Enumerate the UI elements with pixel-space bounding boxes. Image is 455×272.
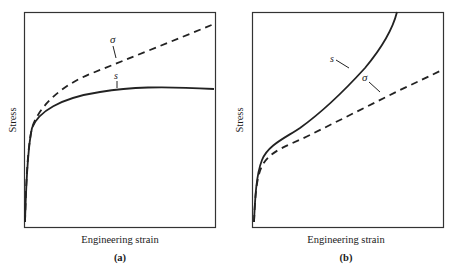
plot-frame-b bbox=[253, 13, 444, 228]
annotation-sigma-b: σ bbox=[362, 71, 368, 83]
annotation-s-a: s bbox=[114, 70, 118, 81]
panel-label-b: (b) bbox=[340, 252, 353, 264]
plot-frame-a bbox=[25, 13, 216, 228]
arrow-sigma-b bbox=[369, 82, 380, 92]
y-axis-label-a: Stress bbox=[7, 107, 18, 132]
arrow-sigma-a bbox=[113, 46, 116, 58]
panel-a: σ s Engineering strain (a) Stress bbox=[7, 13, 216, 265]
curve-sigma-a bbox=[25, 24, 214, 222]
curve-s-b bbox=[254, 12, 397, 222]
annotation-sigma-a: σ bbox=[110, 33, 116, 45]
panel-label-a: (a) bbox=[114, 252, 127, 264]
curve-s-a bbox=[25, 87, 214, 222]
x-axis-label-a: Engineering strain bbox=[81, 234, 159, 245]
y-axis-label-b: Stress bbox=[234, 107, 245, 132]
figure: σ s Engineering strain (a) Stress s σ En… bbox=[0, 0, 455, 272]
panel-b: s σ Engineering strain (b) Stress bbox=[234, 12, 444, 264]
arrow-s-b bbox=[336, 60, 349, 68]
annotation-s-b: s bbox=[330, 53, 334, 64]
x-axis-label-b: Engineering strain bbox=[307, 234, 385, 245]
curve-sigma-b bbox=[254, 70, 442, 222]
